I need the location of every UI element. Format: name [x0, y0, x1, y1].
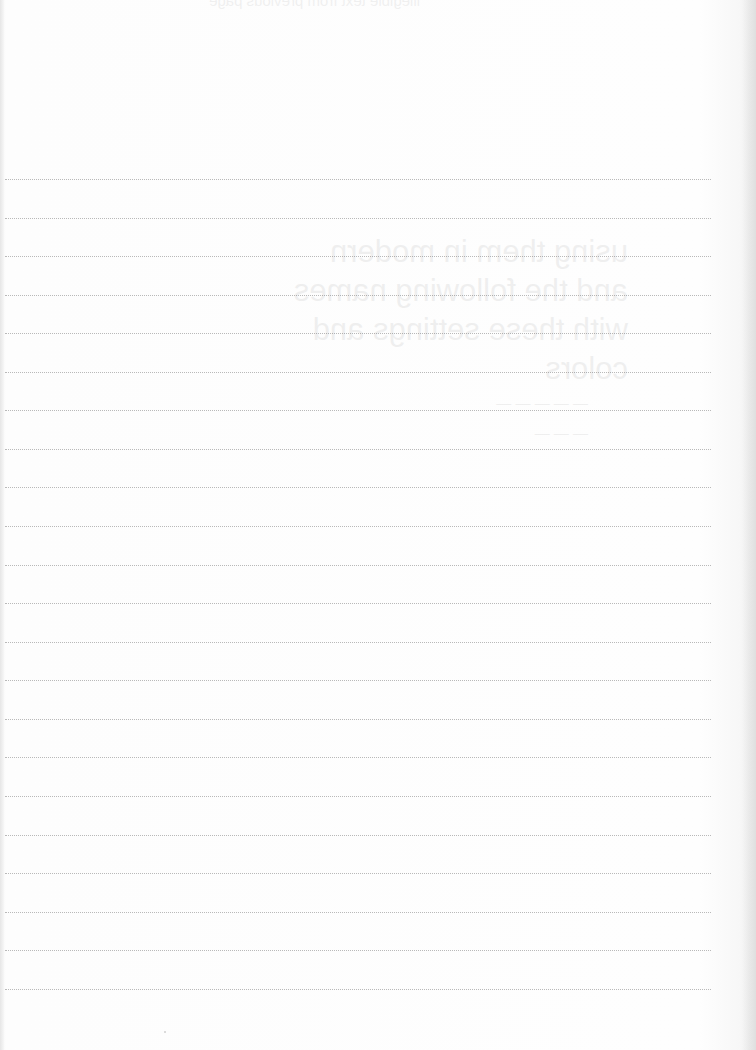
page-right-edge-shadow: [742, 0, 756, 1050]
ruled-line: [5, 912, 711, 913]
ruled-line: [5, 796, 711, 797]
ghost-text-line: with these settings and: [318, 310, 628, 349]
top-bleed-through-text: illegible text from previous page: [40, 0, 420, 6]
reverse-side-bleed-through: using them in modern and the following n…: [318, 232, 628, 448]
ruled-line: [5, 680, 711, 681]
ruled-line: [5, 410, 711, 411]
ruled-line: [5, 642, 711, 643]
ruled-line: [5, 526, 711, 527]
ruled-line: [5, 179, 711, 180]
ruled-line: [5, 565, 711, 566]
ghost-text-line: — — — — —: [318, 388, 628, 418]
ruled-line: [5, 873, 711, 874]
page-left-edge-shadow: [0, 0, 4, 1050]
ruled-line: [5, 835, 711, 836]
ruled-line: [5, 449, 711, 450]
paper-speck: [164, 1031, 166, 1033]
ruled-line: [5, 218, 711, 219]
ruled-line: [5, 256, 711, 257]
ruled-line: [5, 989, 711, 990]
ruled-line: [5, 757, 711, 758]
ruled-line: [5, 295, 711, 296]
ruled-line: [5, 603, 711, 604]
ruled-line: [5, 950, 711, 951]
notebook-page: illegible text from previous page using …: [0, 0, 756, 1050]
ghost-text-line: colors: [318, 349, 628, 388]
ruled-line: [5, 372, 711, 373]
ghost-text-line: using them in modern: [318, 232, 628, 271]
ruled-line: [5, 333, 711, 334]
ghost-text-line: — — —: [318, 418, 628, 448]
ghost-text-line: and the following names: [318, 271, 628, 310]
ruled-line: [5, 487, 711, 488]
ruled-line: [5, 719, 711, 720]
